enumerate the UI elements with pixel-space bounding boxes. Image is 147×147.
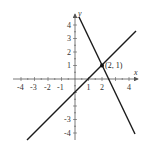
y-axis-label: y <box>77 9 82 18</box>
intersection-point <box>100 64 104 68</box>
y-tick-label: 1 <box>67 61 71 70</box>
x-tick-label: -3 <box>30 83 37 92</box>
y-tick-label: 3 <box>67 34 71 43</box>
x-tick-label: -1 <box>57 83 64 92</box>
x-axis-label: x <box>133 68 138 77</box>
y-tick-label: -4 <box>64 129 71 138</box>
x-tick-label: 2 <box>100 83 104 92</box>
coordinate-plane: x y -4 -3 -2 -1 1 2 4 4 3 2 1 -3 -4 (2, … <box>0 0 147 147</box>
x-tick-label: 1 <box>87 83 91 92</box>
x-tick-label: -2 <box>44 83 51 92</box>
line-y-equals-neg2x-plus-5 <box>79 17 135 134</box>
x-tick-label: -4 <box>17 83 24 92</box>
y-tick-label: -3 <box>64 115 71 124</box>
x-tick-label: 4 <box>127 83 131 92</box>
y-tick-label: 4 <box>67 21 71 30</box>
y-tick-label: 2 <box>67 48 71 57</box>
intersection-label: (2, 1) <box>105 61 123 70</box>
